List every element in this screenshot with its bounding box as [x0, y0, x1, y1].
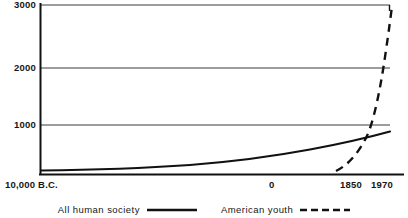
- chart-plot-area: [0, 0, 408, 200]
- y-axis-tick-2000: 2000: [4, 63, 36, 73]
- x-axis-tick-10000-bc: 10,000 B.C.: [5, 180, 58, 190]
- legend-item-all-human-society: All human society: [58, 204, 197, 215]
- legend-swatch-dashed-line: [300, 205, 350, 215]
- series-line-all-human-society: [41, 132, 390, 171]
- y-axis-tick-3000: 3000: [4, 0, 36, 10]
- x-axis-tick-1970: 1970: [371, 180, 393, 190]
- series-line-american-youth: [336, 6, 392, 171]
- x-axis-tick-1850: 1850: [340, 180, 362, 190]
- chart-container: 3000 2000 1000 10,000 B.C. 0 1850 1970 A…: [0, 0, 408, 218]
- legend-swatch-solid-line: [147, 205, 197, 215]
- chart-legend: All human society American youth: [0, 201, 408, 218]
- legend-label-all-human-society: All human society: [58, 204, 140, 215]
- y-axis-tick-1000: 1000: [4, 120, 36, 130]
- legend-item-american-youth: American youth: [221, 204, 350, 215]
- x-axis-tick-0: 0: [269, 180, 274, 190]
- legend-label-american-youth: American youth: [221, 204, 293, 215]
